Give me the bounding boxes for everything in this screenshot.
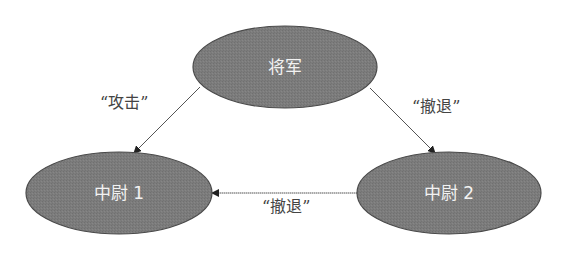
node-label-lieutenant2: 中尉 2 [424,183,474,203]
edge-label-retreat-general: “撤退” [412,97,460,116]
edge-label-attack: “攻击” [100,93,148,112]
node-lieutenant2: 中尉 2 [357,152,541,234]
node-label-general: 将军 [268,57,302,77]
edge-lieutenant2-to-lieutenant1: “撤退” [212,193,357,216]
diagram-canvas: “攻击” “撤退” “撤退” 将军 中尉 1 中尉 2 [0,0,575,258]
node-general: 将军 [193,26,377,108]
node-label-lieutenant1: 中尉 1 [94,183,144,203]
edge-general-to-lieutenant2: “撤退” [370,88,460,153]
node-lieutenant1: 中尉 1 [26,152,212,234]
edge-general-to-lieutenant1: “攻击” [100,87,200,153]
edge-label-retreat-lieutenant2: “撤退” [262,197,310,216]
